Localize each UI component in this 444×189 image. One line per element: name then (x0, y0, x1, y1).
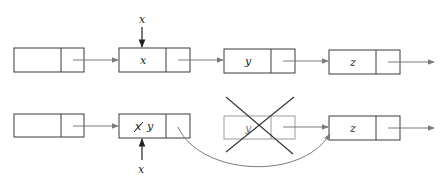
node-value: y (146, 120, 154, 133)
bypass-arrow (178, 127, 330, 167)
node-m2: x y (119, 114, 190, 138)
node-m3-deleted: y (224, 97, 328, 154)
linked-list-deletion-diagram: x y z x (0, 0, 444, 189)
pointer-label: x (138, 163, 145, 176)
node-value: z (349, 122, 356, 135)
node-value: y (244, 55, 252, 68)
node-value: y (244, 122, 252, 135)
pointer-x-above: x (139, 13, 146, 47)
row-after: x y y z x (14, 97, 434, 176)
row-before: x y z x (14, 13, 434, 74)
cross-out-icon (226, 97, 294, 154)
node-value: x (140, 54, 147, 67)
pointer-x-below: x (138, 139, 145, 176)
node-value: z (349, 56, 356, 69)
pointer-label: x (139, 13, 146, 26)
